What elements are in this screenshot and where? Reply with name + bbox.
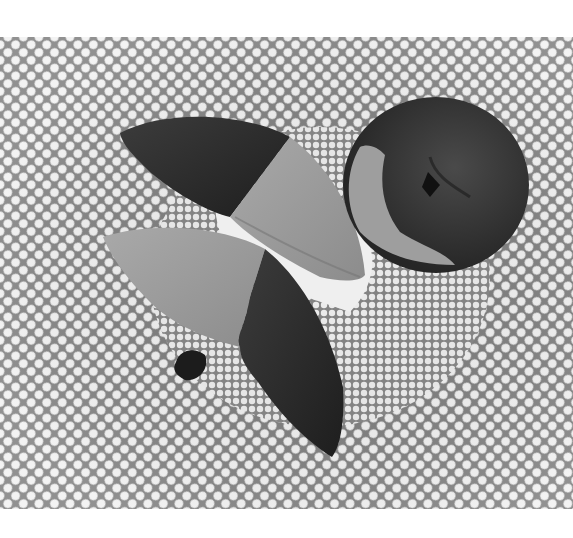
dipped-round-fruit-right	[343, 97, 529, 273]
photo	[0, 37, 573, 509]
